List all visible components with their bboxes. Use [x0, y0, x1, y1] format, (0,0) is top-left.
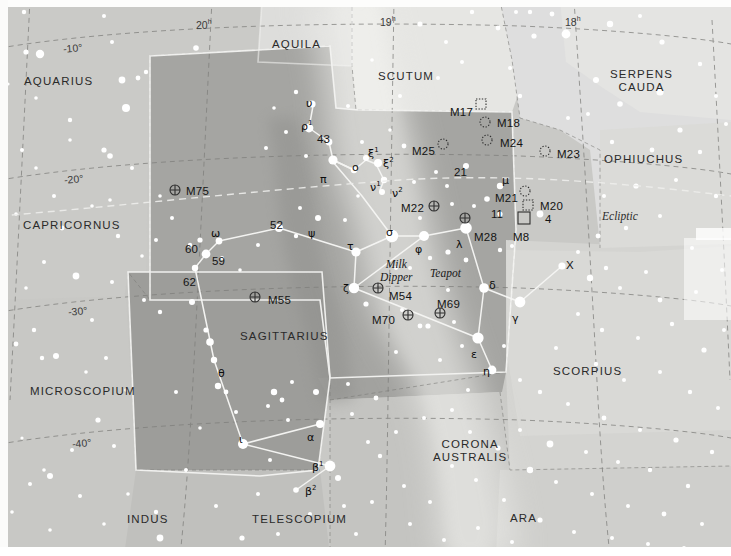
- sky-map-canvas: [0, 0, 731, 556]
- dso-marker-m22: [429, 201, 439, 211]
- scan-top-margin: [0, 0, 731, 7]
- dso-marker-m54: [373, 283, 383, 293]
- scan-bottom-margin: [0, 547, 731, 556]
- dso-marker-m70: [403, 310, 413, 320]
- dso-marker-m75: [170, 185, 180, 195]
- dso-marker-m55: [250, 292, 260, 302]
- star-chart: AQUARIUSAQUILASCUTUMSERPENSCAUDAOPHIUCHU…: [0, 0, 731, 556]
- scan-edge-artifact: [684, 238, 731, 320]
- scan-left-margin: [0, 0, 8, 556]
- dso-marker-m69: [435, 308, 445, 318]
- scan-edge-artifact-2: [696, 228, 731, 240]
- dso-marker-m28: [460, 213, 470, 223]
